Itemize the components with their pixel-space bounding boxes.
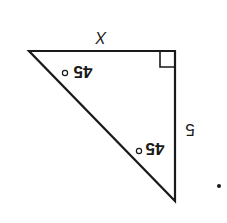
side-label-5: 5 — [185, 120, 194, 139]
triangle — [29, 51, 175, 201]
side-label-x: X — [94, 29, 107, 46]
triangle-diagram: X 5 45 45 — [0, 0, 227, 223]
angle-label-top-left: 45 — [74, 62, 93, 81]
right-angle-marker — [160, 51, 175, 67]
degree-symbol-top-left — [62, 70, 67, 75]
angle-label-bottom: 45 — [146, 139, 165, 158]
dot-mark — [217, 184, 221, 188]
degree-symbol-bottom — [136, 148, 141, 153]
